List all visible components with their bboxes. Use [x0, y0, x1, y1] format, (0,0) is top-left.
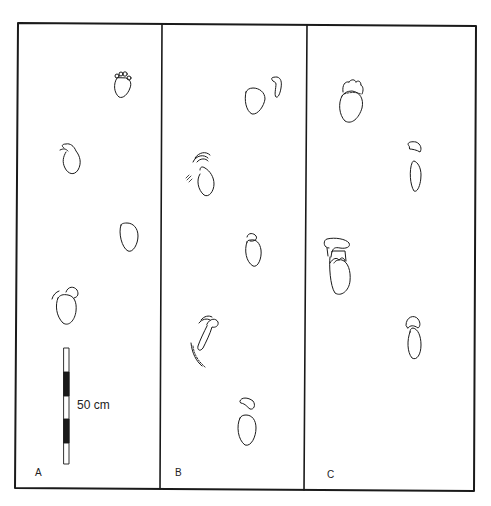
footprint-b2 [198, 167, 214, 196]
panel-divider-ab [160, 24, 162, 489]
scale-bar [64, 348, 69, 464]
footprint-c4 [408, 328, 421, 359]
panel-divider-bc [304, 25, 307, 490]
panel-a-footprints [52, 72, 138, 324]
scale-bar-label: 50 cm [77, 398, 110, 412]
panel-label-c: C [327, 469, 334, 480]
footprint-b4 [198, 319, 218, 350]
footprint-a2 [62, 144, 80, 174]
footprint-a3 [120, 223, 138, 251]
footprint-c2 [408, 142, 421, 152]
panel-b-footprints [186, 77, 281, 445]
footprint-a1 [115, 78, 131, 97]
footprint-b5 [238, 415, 256, 445]
footprint-c1 [340, 91, 363, 122]
trackway-figure [0, 0, 491, 506]
panel-label-b: B [175, 467, 182, 478]
footprint-b3 [246, 240, 262, 266]
panel-label-a: A [35, 467, 42, 478]
footprint-c3 [330, 257, 351, 294]
panel-c-footprints [324, 80, 421, 359]
footprint-a4 [56, 295, 76, 325]
footprint-b1 [245, 88, 265, 114]
